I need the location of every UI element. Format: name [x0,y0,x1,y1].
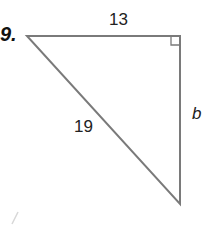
triangle [27,36,180,204]
vertical-leg-label: b [192,104,201,124]
right-triangle-figure [0,0,206,233]
top-leg-label: 13 [109,10,128,30]
right-angle-marker-icon [171,36,180,45]
pencil-mark [12,212,18,224]
hypotenuse-label: 19 [74,117,93,137]
